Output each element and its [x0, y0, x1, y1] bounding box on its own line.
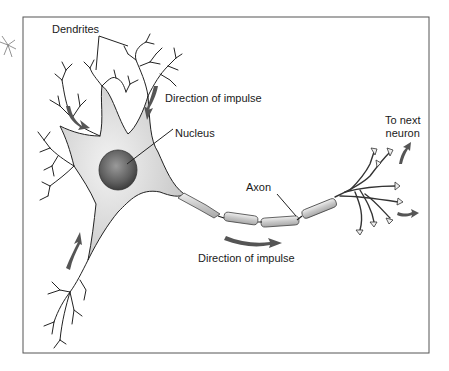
label-dendrites: Dendrites — [52, 23, 99, 36]
label-to-next-line1: To next — [385, 114, 420, 127]
label-direction-of-impulse-bottom: Direction of impulse — [198, 252, 295, 265]
label-axon: Axon — [246, 181, 271, 194]
stray-mark — [0, 36, 16, 57]
label-to-next-line2: neuron — [385, 127, 420, 140]
neuron-diagram — [0, 0, 449, 371]
label-direction-of-impulse-top: Direction of impulse — [165, 92, 262, 105]
label-nucleus: Nucleus — [175, 127, 215, 140]
frame — [23, 17, 429, 353]
label-to-next-neuron: To next neuron — [385, 114, 420, 140]
nucleus — [99, 150, 137, 190]
